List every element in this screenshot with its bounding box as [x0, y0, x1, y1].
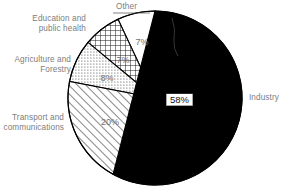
- slice-label-industry: Industry: [249, 93, 279, 103]
- slice-label-agriculture-line1: Agriculture and: [14, 55, 71, 65]
- slice-label-other-line1: Other: [116, 2, 137, 12]
- slice-label-industry-line1: Industry: [249, 93, 279, 103]
- slice-label-other: Other: [116, 2, 137, 12]
- pie-chart-figure: 58% 20% 8% 7% 7% Other Education and pub…: [0, 0, 286, 188]
- slice-label-transport: Transport and communications: [3, 113, 64, 132]
- slice-label-transport-line2: communications: [3, 123, 64, 133]
- value-agriculture: 8%: [100, 73, 113, 83]
- slice-label-agriculture-line2: Forestry: [14, 65, 71, 75]
- slice-label-education-line2: public health: [32, 24, 86, 34]
- value-industry: 58%: [170, 94, 190, 105]
- slice-label-transport-line1: Transport and: [3, 113, 64, 123]
- slice-label-education-line1: Education and: [32, 14, 86, 24]
- slice-label-agriculture: Agriculture and Forestry: [14, 55, 71, 74]
- slice-label-education: Education and public health: [32, 14, 86, 33]
- value-label-industry: 58%: [166, 94, 193, 107]
- value-other: 7%: [135, 37, 148, 47]
- value-transport: 20%: [101, 117, 119, 127]
- value-education: 7%: [116, 55, 129, 65]
